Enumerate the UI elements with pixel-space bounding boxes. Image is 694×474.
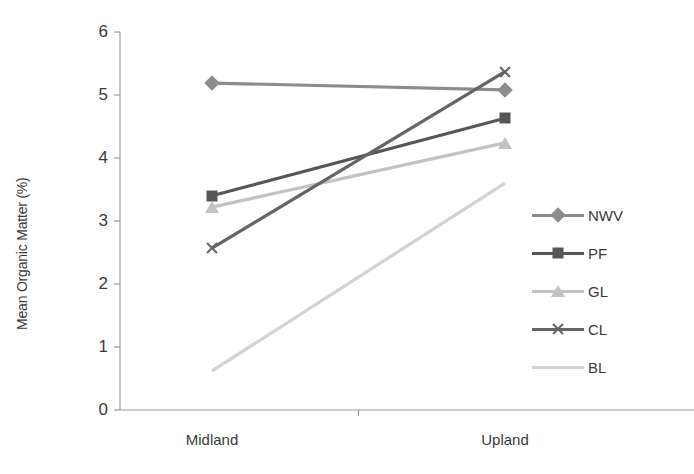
series-line-cl xyxy=(212,72,505,248)
legend-label: GL xyxy=(588,284,608,299)
legend-swatch-gl xyxy=(532,281,584,301)
legend-item-bl[interactable]: BL xyxy=(532,348,682,386)
legend-label: CL xyxy=(588,322,607,337)
line-chart: Mean Organic Matter (%) 0123456 MidlandU… xyxy=(0,0,694,474)
legend-item-cl[interactable]: CL xyxy=(532,310,682,348)
legend-swatch-bl xyxy=(532,357,584,377)
marker-pf xyxy=(207,190,218,201)
legend-item-nwv[interactable]: NWV xyxy=(532,196,682,234)
legend-label: NWV xyxy=(588,208,623,223)
legend-marker-x-icon xyxy=(551,322,565,336)
legend-item-gl[interactable]: GL xyxy=(532,272,682,310)
legend-swatch-pf xyxy=(532,243,584,263)
series-line-gl xyxy=(212,143,505,207)
legend-label: BL xyxy=(588,360,606,375)
chart-legend: NWVPFGLCLBL xyxy=(532,196,682,386)
legend-marker-diamond-icon xyxy=(550,207,566,223)
marker-cl xyxy=(205,241,219,255)
legend-line xyxy=(532,366,584,369)
series-line-nwv xyxy=(212,83,505,90)
marker-gl xyxy=(498,137,512,149)
legend-marker-square-icon xyxy=(553,248,564,259)
series-line-bl xyxy=(212,183,505,371)
legend-swatch-cl xyxy=(532,319,584,339)
legend-marker-triangle-icon xyxy=(551,285,565,297)
marker-gl xyxy=(205,201,219,213)
legend-item-pf[interactable]: PF xyxy=(532,234,682,272)
marker-pf xyxy=(500,113,511,124)
legend-label: PF xyxy=(588,246,607,261)
marker-cl xyxy=(498,65,512,79)
legend-swatch-nwv xyxy=(532,205,584,225)
series-line-pf xyxy=(212,118,505,195)
